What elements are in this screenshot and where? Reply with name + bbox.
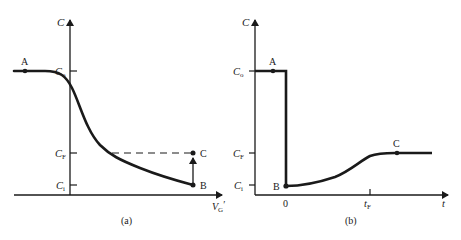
panel-a-label-b: B: [200, 180, 207, 191]
panel-a: C A C B Co CF Ci VG′ (a): [14, 16, 225, 227]
panel-a-label-ci: Ci: [56, 180, 65, 193]
panel-a-label-c0: Co: [55, 66, 66, 79]
panel-a-cv-curve: [14, 71, 193, 185]
panel-b-label-a: A: [269, 56, 277, 67]
panel-b-y-label: C: [242, 16, 250, 28]
panel-b-point-c: [395, 151, 400, 156]
panel-a-point-a: [23, 69, 28, 74]
panel-a-label-c: C: [200, 148, 207, 159]
panel-a-point-b: [191, 183, 196, 188]
panel-b-label-c0: Co: [233, 66, 244, 79]
panel-a-label-cf: CF: [55, 148, 66, 161]
figure-canvas: C A C B Co CF Ci VG′ (a) C A B C Co CF C…: [0, 0, 461, 240]
panel-b-point-b: [283, 183, 288, 188]
panel-b-label-b: B: [273, 181, 280, 192]
panel-a-y-label: C: [57, 16, 65, 28]
panel-b-caption: (b): [345, 215, 357, 227]
panel-b-label-ci: Ci: [234, 180, 243, 193]
panel-b-label-zero: 0: [283, 198, 288, 209]
panel-b-label-c: C: [393, 138, 400, 149]
panel-b-label-cf: CF: [233, 148, 244, 161]
panel-a-label-a: A: [21, 56, 29, 67]
panel-a-x-label: VG′: [212, 199, 225, 214]
panel-b-label-tf: tF: [364, 198, 371, 211]
panel-b-x-label: t: [442, 198, 446, 209]
panel-a-caption: (a): [121, 215, 132, 227]
panel-b: C A B C Co CF Ci 0 tF t (b): [233, 16, 448, 227]
panel-a-point-c: [191, 151, 196, 156]
panel-b-ct-curve: [255, 71, 432, 186]
panel-b-point-a: [271, 69, 276, 74]
